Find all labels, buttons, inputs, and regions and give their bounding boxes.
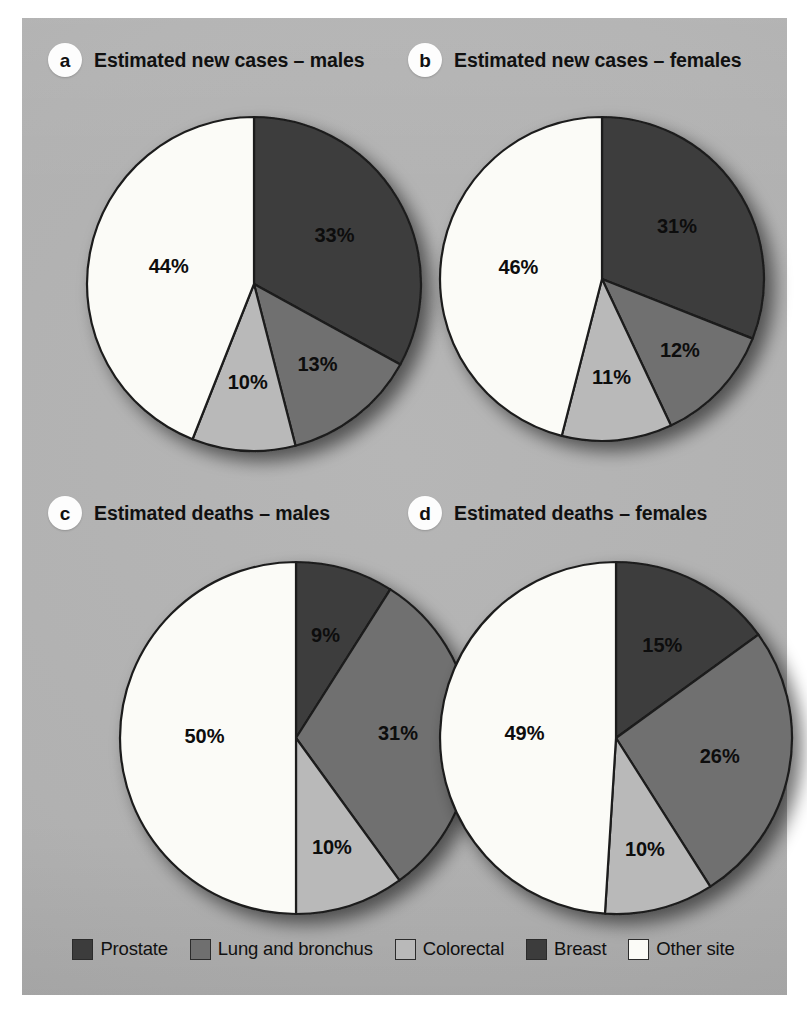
legend-swatch-lung-and-bronchus xyxy=(190,939,211,960)
panel-header-c: c Estimated deaths – males xyxy=(48,496,330,530)
pie-slice-label-d-lung-and-bronchus: 26% xyxy=(700,745,740,767)
panel-title-c: Estimated deaths – males xyxy=(94,502,330,525)
pie-slice-label-c-lung-and-bronchus: 31% xyxy=(378,722,418,744)
pie-svg-b: 31%12%11%46% xyxy=(428,105,776,453)
legend-swatch-prostate xyxy=(72,939,93,960)
pie-slice-label-a-colorectal: 10% xyxy=(228,371,268,393)
pie-disc-b xyxy=(440,117,764,441)
legend-label-lung-and-bronchus: Lung and bronchus xyxy=(218,938,373,960)
pie-slice-label-d-other-site: 49% xyxy=(504,722,544,744)
pie-slice-label-a-other-site: 44% xyxy=(149,255,189,277)
panel-title-a: Estimated new cases – males xyxy=(94,49,364,72)
legend: ProstateLung and bronchusColorectalBreas… xyxy=(0,938,807,960)
pie-slice-label-b-colorectal: 11% xyxy=(592,366,631,388)
panel-header-d: d Estimated deaths – females xyxy=(408,496,707,530)
pie-slice-label-c-colorectal: 10% xyxy=(312,836,352,858)
legend-label-breast: Breast xyxy=(554,938,606,960)
pie-slice-label-d-breast: 15% xyxy=(642,634,682,656)
legend-item-lung-and-bronchus: Lung and bronchus xyxy=(190,938,373,960)
panel-header-a: a Estimated new cases – males xyxy=(48,43,364,77)
pie-disc-d xyxy=(440,562,792,914)
panel-badge-a: a xyxy=(48,43,82,77)
panel-header-b: b Estimated new cases – females xyxy=(408,43,742,77)
pie-slice-label-b-breast: 31% xyxy=(657,215,697,237)
legend-swatch-other-site xyxy=(628,939,649,960)
legend-item-other-site: Other site xyxy=(628,938,734,960)
panel-badge-b: b xyxy=(408,43,442,77)
legend-swatch-colorectal xyxy=(395,939,416,960)
pie-chart-b: 31%12%11%46% xyxy=(428,105,776,453)
legend-item-breast: Breast xyxy=(526,938,606,960)
pie-disc-a xyxy=(87,117,421,451)
legend-label-colorectal: Colorectal xyxy=(423,938,504,960)
pie-svg-d: 15%26%10%49% xyxy=(428,550,804,926)
panel-badge-d: d xyxy=(408,496,442,530)
legend-item-prostate: Prostate xyxy=(72,938,167,960)
pie-slice-label-a-prostate: 33% xyxy=(314,224,354,246)
figure-root: a Estimated new cases – males 33%13%10%4… xyxy=(0,0,807,1018)
legend-label-prostate: Prostate xyxy=(100,938,167,960)
pie-svg-a: 33%13%10%44% xyxy=(75,105,433,463)
pie-slice-label-c-prostate: 9% xyxy=(311,624,340,646)
pie-slice-label-b-lung-and-bronchus: 12% xyxy=(660,339,700,361)
pie-slice-label-b-other-site: 46% xyxy=(498,256,538,278)
pie-chart-d: 15%26%10%49% xyxy=(428,550,804,926)
panel-badge-c: c xyxy=(48,496,82,530)
legend-label-other-site: Other site xyxy=(656,938,734,960)
panel-title-d: Estimated deaths – females xyxy=(454,502,707,525)
pie-slice-label-a-lung-and-bronchus: 13% xyxy=(297,353,337,375)
legend-item-colorectal: Colorectal xyxy=(395,938,504,960)
pie-disc-c xyxy=(120,562,472,914)
pie-chart-a: 33%13%10%44% xyxy=(75,105,433,463)
pie-slice-label-d-colorectal: 10% xyxy=(625,838,665,860)
pie-slice-label-c-other-site: 50% xyxy=(184,725,224,747)
panel-title-b: Estimated new cases – females xyxy=(454,49,742,72)
legend-swatch-breast xyxy=(526,939,547,960)
